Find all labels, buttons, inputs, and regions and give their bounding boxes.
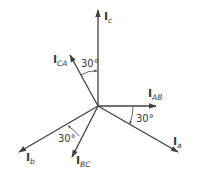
label-IBC: IBC xyxy=(76,154,91,169)
angle-label-IAB-Ia: 30° xyxy=(136,113,154,124)
label-Ia: Ia xyxy=(173,135,182,150)
label-IAB: IAB xyxy=(148,87,162,102)
angle-arc-ICA-Ic xyxy=(81,71,97,75)
label-Ic: Ic xyxy=(104,10,113,25)
label-Ib: Ib xyxy=(26,151,35,166)
phasor-diagram: Ic ICA IAB Ia Ib IBC 30° 30° 30° xyxy=(0,0,197,173)
angle-label-Ib-IBC: 30° xyxy=(58,133,76,144)
angle-arc-IAB-Ia xyxy=(130,107,133,124)
angle-label-ICA-Ic: 30° xyxy=(81,58,99,69)
label-ICA: ICA xyxy=(53,53,67,68)
